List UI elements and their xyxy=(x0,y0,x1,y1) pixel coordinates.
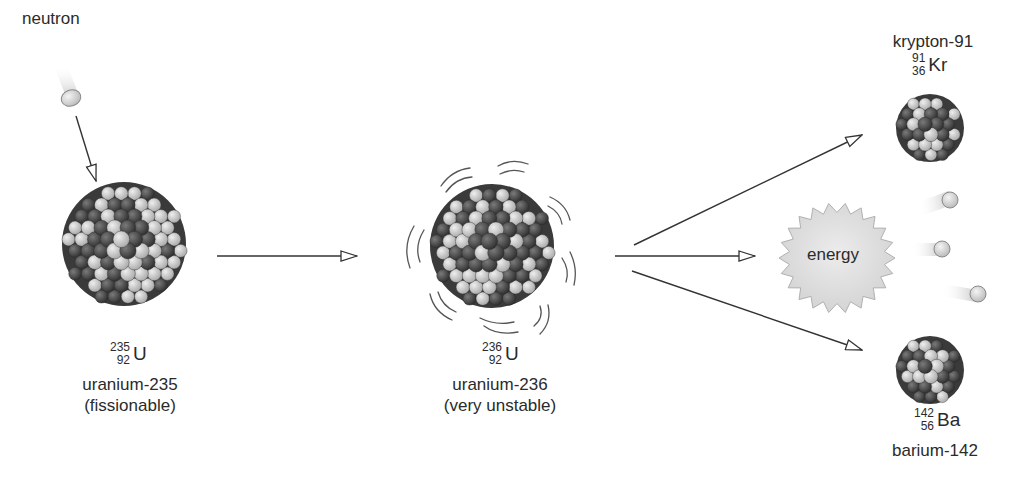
barium-atomic-number: 56 xyxy=(914,420,934,433)
krypton-atomic-number: 36 xyxy=(912,65,925,78)
krypton-isotope-notation: 9136Kr xyxy=(912,52,947,78)
arrow-neutron-to-u235 xyxy=(76,116,96,181)
energy-label: energy xyxy=(807,245,859,265)
u235-name: uranium-235 xyxy=(70,374,190,395)
barium-isotope-notation: 14256Ba xyxy=(914,407,960,433)
incoming-neutron-icon xyxy=(55,63,83,109)
u236-symbol: U xyxy=(505,343,519,365)
u236-nucleus-icon xyxy=(430,184,555,308)
barium-name: barium-142 xyxy=(880,440,990,461)
u235-nucleus-icon xyxy=(62,182,187,306)
u235-isotope-notation: 23592U xyxy=(110,341,147,367)
u235-symbol: U xyxy=(133,343,147,365)
u235-atomic-number: 92 xyxy=(110,354,130,367)
barium-symbol: Ba xyxy=(937,409,960,431)
u236-name: uranium-236 xyxy=(430,374,570,395)
u236-atomic-number: 92 xyxy=(482,354,502,367)
neutron-label: neutron xyxy=(22,8,80,29)
u235-note: (fissionable) xyxy=(70,395,190,416)
u236-isotope-notation: 23692U xyxy=(482,341,519,367)
released-neutron-icon xyxy=(912,241,950,257)
released-neutron-icon xyxy=(942,284,986,302)
released-neutron-icon xyxy=(917,191,958,217)
krypton-name: krypton-91 xyxy=(878,31,988,52)
krypton-symbol: Kr xyxy=(928,54,947,76)
barium-142-nucleus-icon xyxy=(896,336,964,404)
u236-note: (very unstable) xyxy=(430,395,570,416)
krypton-91-nucleus-icon xyxy=(896,94,964,162)
